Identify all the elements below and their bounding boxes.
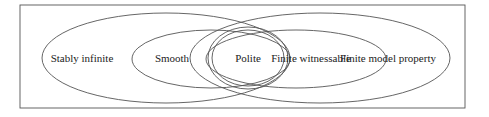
label-smooth: Smooth [155, 52, 190, 64]
label-finite-model-property: Finite model property [340, 52, 436, 64]
label-stably-infinite: Stably infinite [51, 52, 114, 64]
venn-diagram: Stably infinite Smooth Polite Finite wit… [0, 0, 489, 117]
label-finite-witnessable: Finite witnessable [271, 52, 351, 64]
label-polite: Polite [235, 52, 261, 64]
